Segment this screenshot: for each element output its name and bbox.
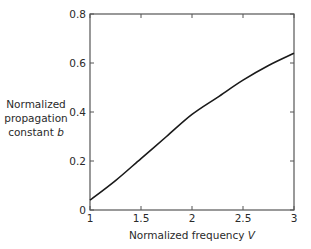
y-tick-label: 0	[79, 204, 86, 216]
x-axis-label-text: Normalized frequency	[129, 229, 248, 241]
y-axis-label-line-2: propagation	[0, 111, 72, 125]
axis-tick-labels: 11.522.5300.20.40.60.8	[69, 8, 297, 224]
axes-box	[90, 14, 294, 210]
y-axis-label-text: constant	[8, 126, 57, 138]
y-tick-label: 0.2	[69, 155, 86, 167]
y-axis-label-variable: b	[57, 126, 64, 138]
data-curve	[90, 53, 294, 200]
y-axis-label-line-3: constant b	[0, 125, 72, 139]
axis-ticks	[90, 14, 294, 210]
y-tick-label: 0.8	[69, 8, 86, 20]
y-axis-label: Normalized propagation constant b	[0, 97, 72, 139]
x-tick-label: 1	[87, 212, 94, 224]
y-axis-label-line-1: Normalized	[0, 97, 72, 111]
x-tick-label: 1.5	[133, 212, 150, 224]
x-tick-label: 3	[291, 212, 298, 224]
y-tick-label: 0.6	[69, 57, 86, 69]
x-tick-label: 2.5	[235, 212, 252, 224]
x-tick-label: 2	[189, 212, 196, 224]
plot-frame	[90, 14, 294, 210]
x-axis-label: Normalized frequency V	[90, 229, 294, 241]
x-axis-label-variable: V	[248, 229, 255, 241]
